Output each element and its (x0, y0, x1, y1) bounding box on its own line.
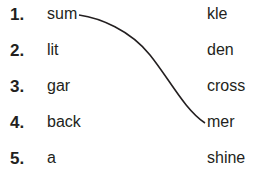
connection-line (0, 0, 271, 175)
